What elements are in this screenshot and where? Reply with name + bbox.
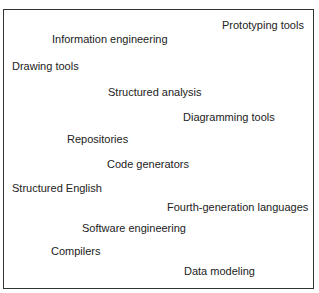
term-software-engineering: Software engineering <box>82 222 186 235</box>
term-structured-english: Structured English <box>12 182 102 195</box>
term-fourth-generation-languages: Fourth-generation languages <box>167 201 308 214</box>
term-drawing-tools: Drawing tools <box>12 60 79 73</box>
term-information-engineering: Information engineering <box>52 33 168 46</box>
term-structured-analysis: Structured analysis <box>108 86 202 99</box>
term-diagramming-tools: Diagramming tools <box>183 111 275 124</box>
term-prototyping-tools: Prototyping tools <box>222 19 304 32</box>
term-repositories: Repositories <box>67 133 128 146</box>
term-code-generators: Code generators <box>107 158 189 171</box>
terms-box <box>3 9 314 289</box>
term-compilers: Compilers <box>51 245 101 258</box>
term-data-modeling: Data modeling <box>184 265 255 278</box>
